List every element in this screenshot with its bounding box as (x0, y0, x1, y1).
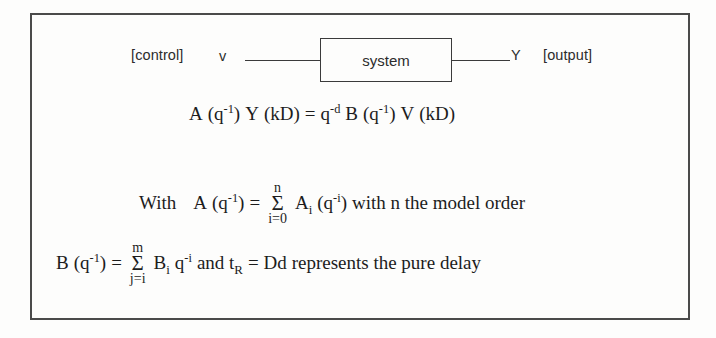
eq-main-q: q (321, 103, 331, 124)
input-wire (245, 60, 321, 61)
eq-with-A: A (193, 192, 207, 213)
eq-b-term-B-subscript: i (166, 262, 170, 277)
system-block-label: system (362, 52, 410, 69)
control-annotation-label: [control] (131, 47, 183, 63)
summation-A-lower-limit: i=0 (268, 212, 287, 226)
eq-main-B-arg-close: ) (389, 103, 395, 124)
eq-main-equals: = (305, 103, 316, 124)
eq-main-B-arg-open: (q (363, 103, 379, 124)
eq-with-A-exponent: -1 (228, 191, 238, 205)
summation-B: mΣj=i (130, 241, 146, 287)
eq-b-suffix: represents the pure delay (292, 252, 481, 273)
eq-b-mid: and t (197, 252, 234, 273)
eq-with-term-A-subscript: i (309, 202, 313, 217)
eq-b-term-q: q (175, 252, 185, 273)
eq-main-Y-arg: (kD) (264, 103, 300, 124)
eq-main-V-arg: (kD) (419, 103, 455, 124)
eq-with-suffix: with n the model order (352, 192, 525, 213)
eq-with-prefix: With (139, 192, 176, 213)
equation-main: A(q-1)Y(kD)=q-dB(q-1)V(kD) (189, 103, 455, 125)
input-signal-label: v (219, 48, 226, 64)
output-wire (452, 60, 510, 61)
eq-main-V: V (400, 103, 414, 124)
figure-page: [control] v system Y [output] A(q-1)Y(kD… (0, 0, 716, 338)
eq-b-equals: = (111, 252, 122, 273)
eq-with-term-arg-close: ) (341, 192, 347, 213)
eq-b-B-exponent: -1 (90, 251, 100, 265)
eq-with-equals: = (249, 192, 260, 213)
block-diagram: [control] v system Y [output] (0, 38, 716, 84)
eq-main-B-exponent: -1 (379, 102, 389, 116)
eq-with-term-A: A (295, 192, 309, 213)
eq-main-Y: Y (245, 103, 259, 124)
eq-b-mid-subscript: R (234, 262, 243, 277)
summation-A: nΣi=0 (268, 181, 287, 227)
system-block: system (320, 38, 452, 82)
eq-with-A-arg-open: (q (212, 192, 228, 213)
eq-b-equals2: = Dd (248, 252, 287, 273)
eq-main-q-exponent: -d (330, 102, 340, 116)
eq-main-A-arg-open: (q (208, 103, 224, 124)
eq-main-B: B (345, 103, 358, 124)
output-signal-label: Y (511, 47, 521, 63)
equation-b-line: B(q-1)=mΣj=iBiq-iand tR= Ddrepresents th… (56, 242, 481, 288)
eq-b-B-arg-open: (q (74, 252, 90, 273)
eq-with-term-arg-open: (q (317, 192, 333, 213)
eq-main-A-arg-close: ) (234, 103, 240, 124)
eq-main-A-exponent: -1 (224, 102, 234, 116)
summation-B-lower-limit: j=i (130, 272, 146, 286)
eq-b-B-arg-close: ) (100, 252, 106, 273)
eq-b-term-B: B (154, 252, 167, 273)
eq-with-A-arg-close: ) (238, 192, 244, 213)
output-annotation-label: [output] (543, 47, 592, 63)
equation-with-line: WithA(q-1)=nΣi=0Ai(q-i)with n the model … (139, 182, 525, 228)
eq-with-term-exponent: -i (333, 191, 341, 205)
eq-b-B: B (56, 252, 69, 273)
eq-b-term-q-exponent: -i (184, 251, 192, 265)
eq-main-A: A (189, 103, 203, 124)
